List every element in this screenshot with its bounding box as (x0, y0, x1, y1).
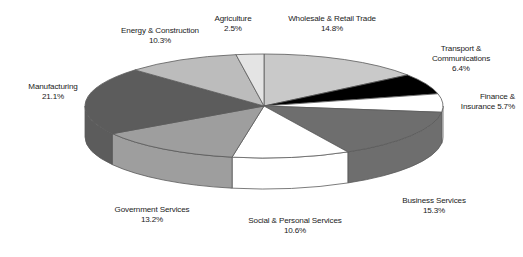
slice-label-manufacturing-name: Manufacturing (12, 82, 94, 92)
slice-label-manufacturing-value: 21.1% (12, 92, 94, 102)
slice-label-transport-communications-name-line1: Transport & (418, 44, 504, 54)
slice-label-energy-construction: Energy & Construction 10.3% (104, 26, 216, 46)
slice-label-transport-communications-name-line2: Communications (418, 54, 504, 64)
slice-label-agriculture-name: Agriculture (196, 14, 270, 24)
slice-label-wholesale-retail-trade: Wholesale & Retail Trade 14.8% (276, 14, 388, 34)
slice-label-finance-insurance-name-line1: Finance & (435, 92, 515, 102)
slice-label-government-services-value: 13.2% (96, 215, 208, 225)
slice-label-wholesale-retail-trade-name: Wholesale & Retail Trade (276, 14, 388, 24)
slice-label-wholesale-retail-trade-value: 14.8% (276, 24, 388, 34)
slice-label-finance-insurance-name-line2: Insurance 5.7% (435, 102, 515, 112)
slice-label-business-services-name: Business Services (386, 196, 482, 206)
slice-label-social-personal-services-value: 10.6% (234, 226, 356, 236)
slice-label-social-personal-services: Social & Personal Services 10.6% (234, 216, 356, 236)
slice-label-energy-construction-value: 10.3% (104, 36, 216, 46)
slice-label-energy-construction-name: Energy & Construction (104, 26, 216, 36)
slice-label-business-services-value: 15.3% (386, 206, 482, 216)
slice-label-business-services: Business Services 15.3% (386, 196, 482, 216)
pie-top-surface (85, 54, 443, 158)
slice-label-transport-communications: Transport & Communications 6.4% (418, 44, 504, 75)
slice-label-government-services-name: Government Services (96, 205, 208, 215)
slice-label-transport-communications-value: 6.4% (418, 64, 504, 74)
pie-chart-figure: Agriculture 2.5% Wholesale & Retail Trad… (0, 0, 523, 257)
slice-label-government-services: Government Services 13.2% (96, 205, 208, 225)
slice-label-finance-insurance: Finance & Insurance 5.7% (435, 92, 515, 112)
slice-label-manufacturing: Manufacturing 21.1% (12, 82, 94, 102)
slice-label-social-personal-services-name: Social & Personal Services (234, 216, 356, 226)
